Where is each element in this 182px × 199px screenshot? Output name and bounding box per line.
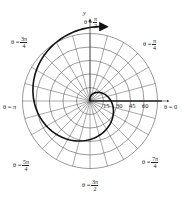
fraction: 3π4	[20, 36, 27, 49]
fraction: 7π4	[151, 156, 158, 169]
fraction: π2	[93, 16, 97, 29]
radial-tick-45: 45	[129, 103, 136, 110]
radial-tick-30: 30	[116, 103, 123, 110]
angle-label-5pi-over-4: θ = 5π4	[13, 159, 29, 172]
fraction: 3π2	[91, 179, 98, 192]
angle-label-pi-over-2: θ = π2	[84, 16, 97, 29]
angle-label-7pi-over-4: θ = 7π4	[142, 156, 158, 169]
fraction: 5π4	[22, 159, 29, 172]
angle-label-pi-over-4: θ = π4	[143, 38, 156, 51]
angle-label-3pi-over-4: θ = 3π4	[11, 36, 27, 49]
angle-label-3pi-over-2: θ = 3π2	[82, 179, 98, 192]
angle-label-zero: θ = 0	[164, 104, 177, 111]
y-axis-label: y	[83, 9, 86, 16]
fraction: π4	[152, 38, 156, 51]
radial-tick-60: 60	[142, 103, 149, 110]
angle-label-pi: θ = π	[3, 104, 16, 111]
radial-tick-15: 15	[103, 103, 110, 110]
